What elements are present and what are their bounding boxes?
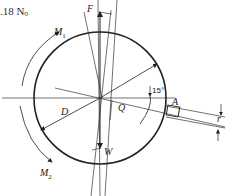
radius-arrow [100, 64, 157, 98]
label-M2: M2 [40, 168, 52, 181]
label-r: r [217, 114, 221, 124]
label-D: D [61, 107, 68, 117]
vertical-line-3 [91, 10, 111, 196]
label-W: W [104, 147, 112, 157]
M1-arc [22, 32, 59, 86]
label-A: A [172, 97, 178, 107]
vertical-line-2 [84, 12, 102, 98]
diameter-arrow [41, 98, 100, 130]
slanted-axis [55, 88, 225, 127]
label-angle: 15° [152, 86, 164, 95]
label-Q: Q [118, 103, 125, 113]
diagram-canvas: .18 N。 F M1 M2 D Q W A r 15° [0, 0, 229, 196]
pulley-force-diagram [0, 0, 229, 196]
label-F: F [87, 4, 93, 14]
header-text: .18 N。 [0, 2, 35, 18]
label-M1: M1 [54, 27, 66, 40]
